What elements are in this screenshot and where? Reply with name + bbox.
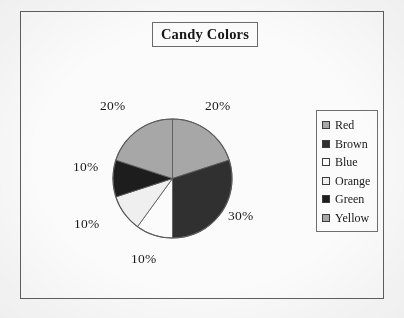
legend-item-green: Green bbox=[322, 190, 377, 209]
legend-swatch-red-icon bbox=[322, 121, 330, 129]
figure-canvas: Candy Colors 20% 20% 30% 10% 10% 10% Red… bbox=[0, 0, 404, 318]
legend-label-green: Green bbox=[335, 193, 364, 205]
pie-chart bbox=[112, 118, 233, 239]
chart-title-box: Candy Colors bbox=[152, 22, 258, 47]
slice-label-yellow: 20% bbox=[100, 98, 125, 114]
legend-label-brown: Brown bbox=[335, 138, 368, 150]
legend-swatch-brown-icon bbox=[322, 140, 330, 148]
legend-item-yellow: Yellow bbox=[322, 209, 377, 228]
legend-item-blue: Blue bbox=[322, 153, 377, 172]
chart-legend: Red Brown Blue Orange Green Yellow bbox=[316, 110, 378, 232]
legend-item-red: Red bbox=[322, 116, 377, 135]
page-title: Candy Colors bbox=[161, 26, 249, 43]
slice-label-orange: 10% bbox=[74, 216, 99, 232]
legend-item-orange: Orange bbox=[322, 172, 377, 191]
pie-chart-svg bbox=[112, 118, 233, 239]
legend-label-blue: Blue bbox=[335, 156, 358, 168]
slice-label-red: 20% bbox=[205, 98, 230, 114]
legend-item-brown: Brown bbox=[322, 135, 377, 154]
legend-swatch-blue-icon bbox=[322, 158, 330, 166]
legend-swatch-orange-icon bbox=[322, 177, 330, 185]
slice-label-brown: 30% bbox=[228, 208, 253, 224]
legend-label-red: Red bbox=[335, 119, 354, 131]
legend-swatch-yellow-icon bbox=[322, 214, 330, 222]
slice-label-blue: 10% bbox=[131, 251, 156, 267]
legend-label-yellow: Yellow bbox=[335, 212, 369, 224]
slice-label-green: 10% bbox=[73, 159, 98, 175]
legend-label-orange: Orange bbox=[335, 175, 370, 187]
legend-swatch-green-icon bbox=[322, 195, 330, 203]
